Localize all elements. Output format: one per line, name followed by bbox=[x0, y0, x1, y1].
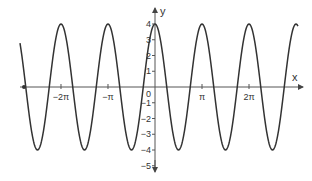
y-tick-label: 3 bbox=[146, 35, 151, 45]
x-tick-label: −π bbox=[102, 92, 113, 102]
y-tick-label: −5 bbox=[141, 161, 151, 171]
y-tick-label: 1 bbox=[146, 66, 151, 76]
x-tick-label: π bbox=[199, 92, 205, 102]
y-tick-label: −2 bbox=[141, 114, 151, 124]
y-axis-label: y bbox=[160, 5, 166, 17]
x-tick-label: −2π bbox=[53, 92, 69, 102]
cosine-graph: −2π−ππ2π43210−1−2−3−4−5 x y bbox=[0, 0, 312, 181]
x-axis-label: x bbox=[292, 71, 298, 83]
y-tick-label: −4 bbox=[141, 145, 151, 155]
y-tick-label: −3 bbox=[141, 129, 151, 139]
y-tick-label: 4 bbox=[146, 19, 151, 29]
plot-svg: −2π−ππ2π43210−1−2−3−4−5 x y bbox=[0, 0, 312, 181]
x-tick-label: 2π bbox=[243, 92, 254, 102]
y-tick-label: 2 bbox=[146, 51, 151, 61]
y-tick-label: −1 bbox=[141, 98, 151, 108]
